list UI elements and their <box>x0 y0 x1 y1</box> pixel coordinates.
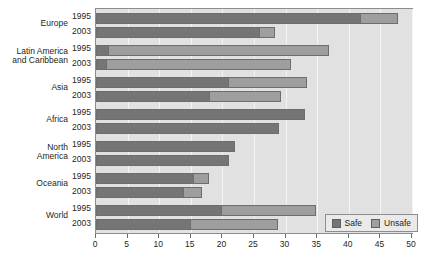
square-swatch-icon <box>332 219 341 228</box>
chart-legend: Safe Unsafe <box>325 214 418 232</box>
bar-segment-unsafe <box>106 59 291 70</box>
bar-segment-safe <box>96 187 184 198</box>
year-label-stack: 1995 2003 <box>72 9 93 39</box>
bar-segment-unsafe <box>259 27 275 38</box>
bar-segment-safe <box>96 155 229 166</box>
bar-segment-safe <box>96 219 191 230</box>
year-label-1995: 1995 <box>72 9 93 24</box>
stacked-bar <box>96 27 276 38</box>
stacked-bar <box>96 13 399 24</box>
legend-label: Safe <box>345 218 363 228</box>
bar-segment-safe <box>96 173 194 184</box>
year-label-2003: 2003 <box>72 120 93 135</box>
year-label-1995: 1995 <box>72 169 93 184</box>
stacked-bar <box>96 219 279 230</box>
stacked-bar-chart: Europe 1995 2003 Latin America and Carib… <box>0 0 424 256</box>
axis-tick <box>221 234 222 238</box>
year-label-stack: 1995 2003 <box>72 73 93 103</box>
category-label: Asia <box>51 83 72 93</box>
category-label: North America <box>37 143 72 162</box>
stacked-bar <box>96 45 330 56</box>
axis-tick <box>348 234 349 238</box>
axis-tick <box>285 234 286 238</box>
year-label-1995: 1995 <box>72 73 93 88</box>
category-group-world: World 1995 2003 <box>0 200 93 232</box>
axis-tick-label: 35 <box>311 239 320 249</box>
axis-tick-label: 20 <box>217 239 226 249</box>
axis-tick-label: 30 <box>280 239 289 249</box>
bar-segment-safe <box>96 109 305 120</box>
year-label-2003: 2003 <box>72 184 93 199</box>
bar-group <box>96 9 412 41</box>
year-label-2003: 2003 <box>72 216 93 231</box>
stacked-bar <box>96 91 282 102</box>
bar-group <box>96 169 412 201</box>
bar-segment-safe <box>96 13 361 24</box>
stacked-bar <box>96 155 229 166</box>
axis-tick <box>316 234 317 238</box>
axis-tick-label: 5 <box>124 239 129 249</box>
legend-item-safe: Safe <box>332 218 363 228</box>
axis-tick <box>190 234 191 238</box>
stacked-bar <box>96 77 308 88</box>
axis-tick-label: 10 <box>153 239 162 249</box>
stacked-bar <box>96 205 317 216</box>
category-group-europe: Europe 1995 2003 <box>0 8 93 40</box>
category-label: World <box>46 211 72 221</box>
category-group-africa: Africa 1995 2003 <box>0 104 93 136</box>
bar-segment-safe <box>96 77 229 88</box>
category-label: Europe <box>41 19 72 29</box>
bar-segment-safe <box>96 123 279 134</box>
year-label-2003: 2003 <box>72 152 93 167</box>
bar-segment-unsafe <box>193 173 209 184</box>
legend-label: Unsafe <box>384 218 411 228</box>
bar-segment-safe <box>96 141 235 152</box>
year-label-2003: 2003 <box>72 24 93 39</box>
bar-group <box>96 73 412 105</box>
category-label: Africa <box>46 115 72 125</box>
stacked-bar <box>96 173 210 184</box>
bar-group <box>96 105 412 137</box>
stacked-bar <box>96 187 203 198</box>
axis-tick-label: 50 <box>406 239 415 249</box>
year-label-1995: 1995 <box>72 105 93 120</box>
axis-tick <box>158 234 159 238</box>
plot-area <box>95 8 413 234</box>
x-axis: 05101520253035404550 <box>95 234 413 254</box>
bar-group <box>96 137 412 169</box>
legend-item-unsafe: Unsafe <box>371 218 411 228</box>
category-label: Latin America and Caribbean <box>12 47 72 66</box>
category-label: Oceania <box>36 179 72 189</box>
axis-tick <box>379 234 380 238</box>
bar-segment-safe <box>96 91 210 102</box>
year-label-2003: 2003 <box>72 56 93 71</box>
gridline <box>412 9 413 233</box>
year-label-1995: 1995 <box>72 201 93 216</box>
bar-segment-unsafe <box>221 205 316 216</box>
axis-tick <box>127 234 128 238</box>
bar-segment-unsafe <box>228 77 307 88</box>
bar-segment-unsafe <box>183 187 202 198</box>
category-group-oceania: Oceania 1995 2003 <box>0 168 93 200</box>
year-label-1995: 1995 <box>72 41 93 56</box>
stacked-bar <box>96 123 279 134</box>
year-label-stack: 1995 2003 <box>72 105 93 135</box>
bar-group <box>96 41 412 73</box>
category-group-latin-america: Latin America and Caribbean 1995 2003 <box>0 40 93 72</box>
axis-tick-label: 0 <box>93 239 98 249</box>
bar-segment-unsafe <box>108 45 329 56</box>
year-label-1995: 1995 <box>72 137 93 152</box>
stacked-bar <box>96 109 305 120</box>
year-label-2003: 2003 <box>72 88 93 103</box>
axis-tick-label: 40 <box>343 239 352 249</box>
category-label-column: Europe 1995 2003 Latin America and Carib… <box>0 8 93 234</box>
year-label-stack: 1995 2003 <box>72 201 93 231</box>
bar-segment-safe <box>96 27 260 38</box>
category-group-north-america: North America 1995 2003 <box>0 136 93 168</box>
square-swatch-icon <box>371 219 380 228</box>
stacked-bar <box>96 59 292 70</box>
stacked-bar <box>96 141 235 152</box>
bar-segment-unsafe <box>360 13 398 24</box>
axis-tick <box>253 234 254 238</box>
bar-segment-unsafe <box>209 91 282 102</box>
